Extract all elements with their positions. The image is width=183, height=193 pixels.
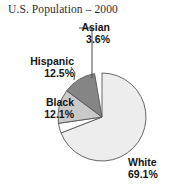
slice-label-white-percent: 69.1% (128, 169, 180, 181)
slice-label-white: White 69.1% (128, 157, 180, 180)
pie-chart-figure: U.S. Population – 2000 Asian 3.6% Hispan… (0, 0, 183, 193)
slice-label-asian-name: Asian (46, 22, 110, 34)
slice-label-black-percent: 12.1% (2, 109, 74, 121)
slice-label-asian-percent: 3.6% (46, 34, 110, 46)
slice-label-hispanic-name: Hispanic (2, 56, 74, 68)
slice-label-hispanic-percent: 12.5% (2, 68, 74, 80)
slice-label-asian: Asian 3.6% (46, 22, 110, 45)
slice-label-hispanic: Hispanic 12.5% (2, 56, 74, 79)
slice-label-white-name: White (128, 157, 180, 169)
slice-label-black-name: Black (2, 97, 74, 109)
slice-label-black: Black 12.1% (2, 97, 74, 120)
